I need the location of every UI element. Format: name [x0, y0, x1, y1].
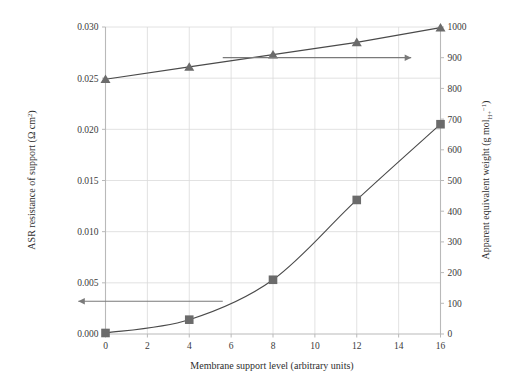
- right-axis-title-subscript: H+: [486, 111, 493, 120]
- right-axis-title: Apparent equivalent weight (g molH+−1): [480, 101, 493, 260]
- left-y-tick-label: 0.010: [77, 227, 99, 237]
- left-y-tick-label: 0.030: [77, 22, 99, 32]
- right-axis-title-main: Apparent equivalent weight (g mol: [480, 119, 492, 259]
- x-tick-label: 16: [436, 341, 446, 351]
- right-axis-title-text: Apparent equivalent weight (g molH+−1): [480, 101, 493, 260]
- right-y-tick-label: 100: [448, 299, 463, 309]
- left-axis-title-main: ASR resistance of support (Ω cm: [26, 117, 38, 250]
- right-y-tick-label: 600: [448, 145, 463, 155]
- data-point-square: [352, 196, 361, 205]
- left-y-tick-label: 0.000: [77, 329, 99, 339]
- scatter-line-chart: 0246810121416 0.0000.0050.0100.0150.0200…: [0, 0, 506, 383]
- x-tick-label: 2: [145, 341, 150, 351]
- left-axis-title: ASR resistance of support (Ω cm2): [26, 110, 38, 249]
- data-point-square: [185, 315, 194, 324]
- right-y-tick-label: 200: [448, 268, 463, 278]
- right-y-tick-label: 0: [448, 329, 453, 339]
- right-y-tick-label: 400: [448, 207, 463, 217]
- right-y-tick-label: 1000: [448, 22, 467, 32]
- data-point-square: [101, 329, 110, 338]
- x-axis-title: Membrane support level (arbitrary units): [190, 360, 353, 372]
- left-y-tick-label: 0.005: [77, 278, 99, 288]
- right-y-tick-label: 800: [448, 84, 463, 94]
- x-axis-title-text: Membrane support level (arbitrary units): [190, 360, 353, 372]
- left-axis-title-tail: ): [26, 110, 38, 113]
- data-point-square: [436, 120, 445, 129]
- data-point-square: [269, 275, 278, 284]
- left-y-tick-label: 0.020: [77, 125, 99, 135]
- chart-container: 0246810121416 0.0000.0050.0100.0150.0200…: [0, 0, 506, 383]
- x-tick-label: 10: [310, 341, 320, 351]
- right-y-tick-label: 300: [448, 237, 463, 247]
- x-tick-label: 14: [394, 341, 404, 351]
- right-y-tick-label: 700: [448, 115, 463, 125]
- x-tick-label: 12: [352, 341, 362, 351]
- right-y-tick-label: 500: [448, 176, 463, 186]
- x-tick-label: 8: [271, 341, 276, 351]
- x-tick-label: 0: [103, 341, 108, 351]
- x-tick-label: 6: [229, 341, 234, 351]
- left-axis-title-text: ASR resistance of support (Ω cm2): [26, 110, 38, 249]
- right-axis-title-tail: ): [480, 101, 492, 104]
- x-tick-label: 4: [187, 341, 192, 351]
- left-y-tick-label: 0.015: [77, 176, 99, 186]
- left-y-tick-label: 0.025: [77, 74, 99, 84]
- right-axis-title-superscript: −1: [480, 104, 487, 111]
- right-y-tick-label: 900: [448, 53, 463, 63]
